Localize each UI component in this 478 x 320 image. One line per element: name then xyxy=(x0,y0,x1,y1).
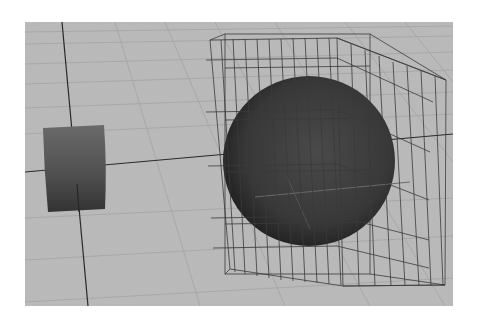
cylinder-object[interactable] xyxy=(43,125,106,212)
viewport-3d[interactable]: Perspective viewport xyxy=(25,22,453,306)
